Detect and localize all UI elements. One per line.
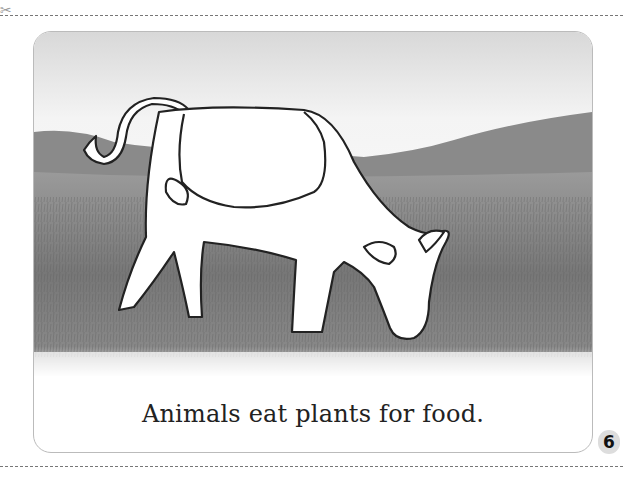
page-caption: Animals eat plants for food. (34, 400, 592, 428)
grazing-cow-illustration (34, 32, 592, 377)
cut-line-top (0, 15, 623, 16)
bottom-fade (34, 352, 592, 377)
cut-line-bottom (0, 466, 623, 467)
page-number-badge: 6 (598, 430, 620, 454)
page-frame: Animals eat plants for food. (33, 31, 593, 453)
